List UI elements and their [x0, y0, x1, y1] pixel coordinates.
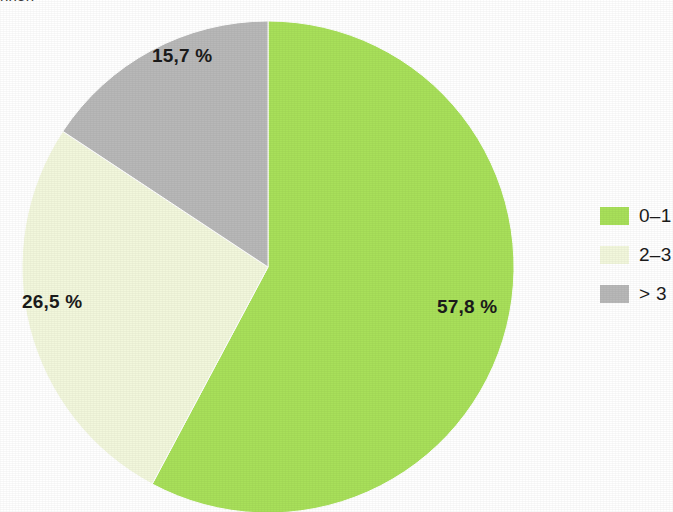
legend-label-gt-3: > 3: [639, 283, 667, 305]
legend-swatch-icon-gt-3: [600, 285, 629, 303]
pie-chart-plot-area: 57,8 % 26,5 % 15,7 %: [0, 0, 580, 512]
slice-value-label-gt-3: 15,7 %: [152, 45, 212, 67]
legend-item-2-3[interactable]: 2–3: [600, 245, 672, 264]
pie-slices-group: [22, 21, 514, 512]
pie-chart-svg: [0, 0, 580, 512]
chart-legend: 0–1 2–3 > 3: [600, 206, 672, 303]
legend-swatch-icon-2-3: [600, 246, 629, 264]
slice-value-label-2-3: 26,5 %: [22, 291, 82, 313]
slice-value-label-0-1: 57,8 %: [437, 296, 497, 318]
legend-label-0-1: 0–1: [639, 205, 672, 227]
legend-item-gt-3[interactable]: > 3: [600, 284, 672, 303]
legend-item-0-1[interactable]: 0–1: [600, 206, 672, 225]
legend-swatch-icon-0-1: [600, 207, 629, 225]
legend-label-2-3: 2–3: [639, 244, 672, 266]
